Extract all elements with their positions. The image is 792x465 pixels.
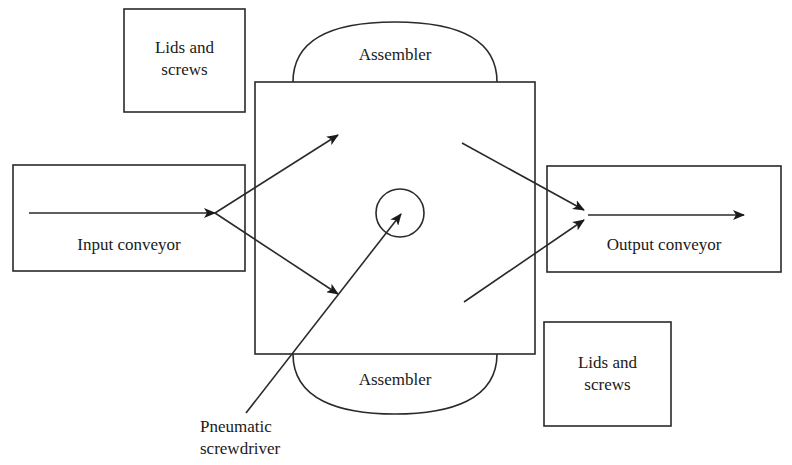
screwdriver-station-circle [376, 189, 424, 237]
output-conveyor-box [547, 166, 781, 272]
assembler-label-bottom: Assembler [293, 369, 497, 391]
pneumatic-screwdriver-label: Pneumatic screwdriver [200, 416, 300, 460]
lids-screws-label-bottom: Lids and screws [544, 352, 671, 396]
work-cell [255, 82, 535, 354]
from-lower-assembler-arrow [464, 220, 584, 302]
to-upper-assembler-arrow [215, 135, 338, 213]
input-conveyor-label: Input conveyor [13, 234, 245, 256]
from-upper-assembler-arrow [462, 143, 584, 210]
output-conveyor-label: Output conveyor [547, 234, 781, 256]
workcell-diagram [0, 0, 792, 465]
assembler-label-top: Assembler [293, 44, 497, 66]
lids-screws-label-top: Lids and screws [124, 37, 245, 81]
